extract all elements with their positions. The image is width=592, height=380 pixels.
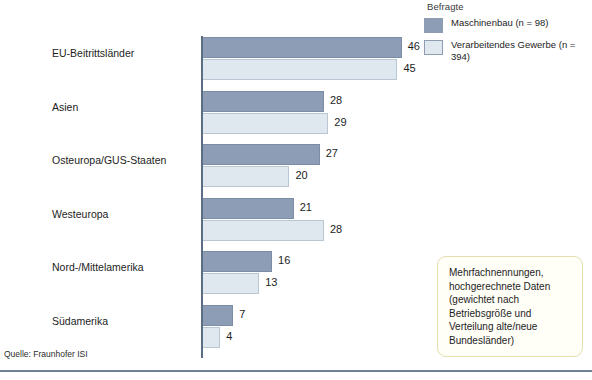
category-label: EU-Beitrittsländer (0, 47, 190, 59)
bar (203, 305, 233, 326)
category-axis-labels: EU-BeitrittsländerAsienOsteuropa/GUS-Sta… (0, 36, 196, 358)
bar-row: 27 (203, 144, 503, 165)
bar-row: 21 (203, 198, 503, 219)
bar-value-label: 28 (330, 94, 342, 106)
bar-group: 4645 (203, 37, 503, 81)
bar (203, 113, 328, 134)
bar-group: 2720 (203, 144, 503, 188)
bar (203, 144, 320, 165)
bar-group: 2829 (203, 91, 503, 135)
methodology-note: Mehrfachnennungen, hochgerechnete Daten … (437, 256, 583, 357)
bar-row: 28 (203, 220, 503, 241)
bar-value-label: 16 (278, 254, 290, 266)
legend-item-maschinenbau: Maschinenbau (n = 98) (424, 17, 592, 33)
bar-group: 2128 (203, 198, 503, 242)
category-label: Asien (0, 101, 190, 113)
bar-row: 46 (203, 37, 503, 58)
bar (203, 166, 289, 187)
bar-value-label: 45 (403, 62, 415, 74)
bar (203, 59, 397, 80)
bar (203, 273, 259, 294)
bar (203, 251, 272, 272)
bar-value-label: 46 (408, 40, 420, 52)
plot-area: EU-BeitrittsländerAsienOsteuropa/GUS-Sta… (0, 0, 420, 366)
bar-value-label: 13 (265, 276, 277, 288)
legend-label-maschinenbau: Maschinenbau (n = 98) (451, 17, 548, 29)
category-label: Osteuropa/GUS-Staaten (0, 154, 190, 166)
bar (203, 198, 294, 219)
bar-row: 29 (203, 113, 503, 134)
source-note: Quelle: Fraunhofer ISI (4, 349, 88, 359)
bar (203, 37, 402, 58)
bar (203, 220, 324, 241)
bar-value-label: 27 (326, 147, 338, 159)
bar-value-label: 28 (330, 223, 342, 235)
bar (203, 327, 220, 348)
bar-value-label: 7 (239, 308, 245, 320)
category-label: Südamerika (0, 315, 190, 327)
bar-value-label: 29 (334, 116, 346, 128)
bar-row: 20 (203, 166, 503, 187)
bar-row: 28 (203, 91, 503, 112)
bar-value-label: 20 (295, 169, 307, 181)
legend-title: Befragte (427, 1, 592, 12)
chart-page: Befragte Maschinenbau (n = 98) Verarbeit… (0, 0, 592, 380)
legend-swatch-maschinenbau (424, 18, 443, 33)
bottom-divider (0, 370, 592, 372)
bar-value-label: 21 (300, 201, 312, 213)
bar-value-label: 4 (226, 330, 232, 342)
category-label: Westeuropa (0, 208, 190, 220)
bar-row: 45 (203, 59, 503, 80)
category-label: Nord-/Mittelamerika (0, 261, 190, 273)
bar (203, 91, 324, 112)
